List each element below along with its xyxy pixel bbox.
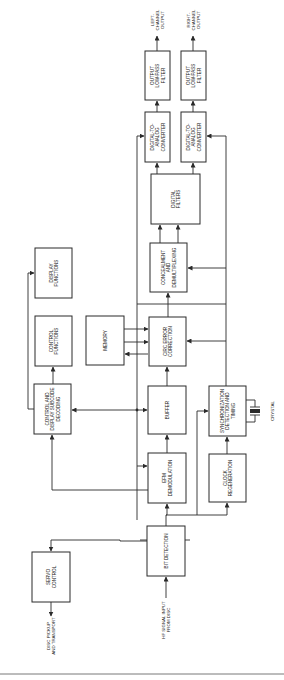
block-concealment-demux: CONCEALMENTANDDEMULTIPLEXING — [150, 243, 187, 292]
block-lpf-left: OUTPUTLOW-PASSFILTER — [145, 51, 170, 100]
block-buffer: BUFFER — [148, 386, 186, 434]
svg-text:MEMORY: MEMORY — [103, 330, 108, 351]
label-disc-pickup: DISC PICKUPAND TRANSPORT — [46, 617, 56, 655]
crystal-icon — [246, 400, 260, 422]
label-left-output: LEFT-CHANNELOUTPUT — [150, 9, 165, 31]
block-dac-left: DIGITAL-TO-ANALOGCONVERTER — [145, 112, 170, 162]
block-control-functions: CONTROLFUNCTIONS — [35, 316, 72, 366]
block-control-display-decoding: CONTROL ANDDISPLAY SUBCODEDECODING — [34, 384, 71, 434]
label-rf-input: HF SIGNAL INPUTFROM DISC — [161, 601, 171, 639]
svg-text:CIRC ERRORCORRECTION: CIRC ERRORCORRECTION — [163, 326, 174, 357]
svg-text:DISPLAYFUNCTIONS: DISPLAYFUNCTIONS — [49, 260, 60, 287]
block-circ-error-correction: CIRC ERRORCORRECTION — [149, 317, 186, 366]
block-bit-detection: BIT DETECTION — [147, 526, 185, 576]
block-diagram: SERVOCONTROL BIT DETECTION EFMDEMODULATI… — [0, 0, 284, 680]
svg-text:CONTROLFUNCTIONS: CONTROLFUNCTIONS — [49, 328, 60, 355]
block-display-functions: DISPLAYFUNCTIONS — [35, 248, 72, 298]
svg-text:DIGITALFILTERS: DIGITALFILTERS — [171, 190, 182, 209]
block-memory: MEMORY — [86, 316, 124, 365]
block-efm-demodulation: EFMDEMODULATION — [148, 453, 186, 503]
svg-text:BIT DETECTION: BIT DETECTION — [164, 534, 169, 569]
svg-text:BUFFER: BUFFER — [165, 400, 170, 419]
block-sync-detection: SYNCHRONIZATIONDETECTION ANDTIMING — [209, 386, 246, 436]
block-digital-filters: DIGITALFILTERS — [151, 174, 200, 224]
block-lpf-right: OUTPUTLOW-PASSFILTER — [181, 51, 206, 100]
block-dac-right: DIGITAL-TO-ANALOGCONVERTER — [181, 112, 206, 162]
label-right-output: RIGHT-CHANNELOUTPUT — [186, 9, 201, 31]
block-clock-regeneration: CLOCKREGENERATION — [209, 454, 246, 502]
block-servo-control: SERVOCONTROL — [32, 552, 70, 602]
label-crystal: CRYSTAL — [270, 401, 275, 421]
